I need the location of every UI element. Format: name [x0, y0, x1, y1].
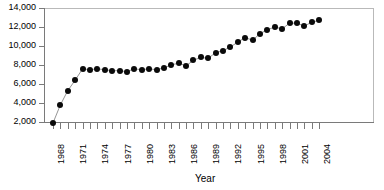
- data-point-marker: [242, 35, 248, 41]
- data-point-marker: [102, 67, 108, 73]
- data-point-marker: [183, 63, 189, 69]
- x-axis-title: Year: [195, 173, 215, 184]
- data-point-marker: [220, 48, 226, 54]
- data-point-marker: [146, 66, 152, 72]
- chart-container: 2,0004,0006,0008,00010,00012,00014,000 1…: [0, 0, 384, 190]
- data-point-marker: [257, 31, 263, 37]
- data-point-marker: [65, 88, 71, 94]
- data-point-marker: [213, 50, 219, 56]
- data-point-marker: [272, 24, 278, 30]
- data-point-marker: [309, 19, 315, 25]
- data-point-marker: [87, 67, 93, 73]
- data-point-marker: [139, 67, 145, 73]
- data-point-marker: [154, 67, 160, 73]
- series-line-path: [0, 0, 384, 190]
- data-point-marker: [250, 37, 256, 43]
- data-point-marker: [80, 66, 86, 72]
- data-point-marker: [279, 26, 285, 32]
- data-point-marker: [117, 68, 123, 74]
- data-point-marker: [287, 20, 293, 26]
- data-point-marker: [161, 65, 167, 71]
- data-point-marker: [176, 60, 182, 66]
- data-point-marker: [124, 69, 130, 75]
- data-point-marker: [50, 120, 56, 126]
- data-point-marker: [235, 39, 241, 45]
- data-point-marker: [109, 68, 115, 74]
